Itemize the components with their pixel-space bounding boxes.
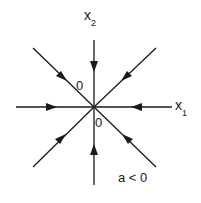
arrowhead-negative-x1-inward: [46, 103, 57, 111]
origin-label-upper: 0: [76, 79, 83, 92]
arrowhead-negative-x2-inward: [90, 144, 98, 155]
origin-label-lower: 0: [95, 116, 102, 129]
axis-label-x1-base: x: [175, 97, 182, 113]
axis-label-x2-base: x: [84, 7, 91, 23]
arrowhead-lower-left-diagonal-inward: [55, 134, 66, 144]
axis-label-x1-subscript: 1: [182, 108, 187, 118]
arrowhead-positive-x1-inward: [131, 103, 142, 111]
phase-portrait-canvas: [0, 0, 201, 203]
phase-portrait-figure: x2 x1 0 0 a < 0: [0, 0, 201, 203]
axis-label-x2: x2: [84, 8, 96, 26]
axis-label-x2-subscript: 2: [91, 18, 96, 28]
axis-label-x1: x1: [175, 98, 187, 116]
condition-label: a < 0: [118, 171, 147, 184]
arrowhead-positive-x2-inward: [90, 61, 98, 72]
